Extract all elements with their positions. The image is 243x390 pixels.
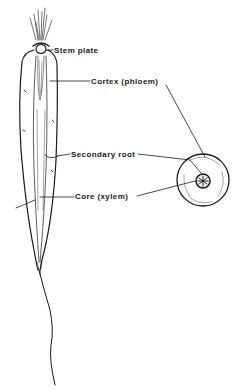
cross-section	[177, 154, 229, 206]
label-stem-plate: Stem plate	[54, 46, 98, 55]
stem-plate-shape	[36, 45, 46, 54]
leader-secondary-root	[57, 154, 70, 156]
taproot-tail	[39, 270, 55, 385]
root-outline	[20, 50, 38, 270]
label-core-xylem: Core (xylem)	[75, 192, 128, 201]
leaf-stubs	[30, 8, 52, 40]
leader-cortex-to-section	[166, 85, 205, 157]
label-cortex-phloem: Cortex (phloem)	[91, 77, 158, 86]
carrot-diagram: Stem plate Cortex (phloem) Secondary roo…	[0, 0, 243, 390]
label-secondary-root: Secondary root	[71, 150, 135, 159]
leader-core-to-section	[137, 181, 195, 196]
